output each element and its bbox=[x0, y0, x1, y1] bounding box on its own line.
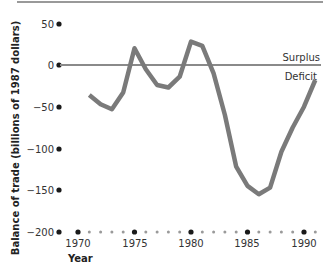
y-tick-label: 50 bbox=[41, 19, 54, 30]
x-tick-dot-minor bbox=[156, 231, 159, 234]
x-tick-dot-minor bbox=[167, 231, 170, 234]
x-tick-dot-minor bbox=[314, 231, 317, 234]
y-tick-dot bbox=[56, 21, 61, 26]
y-tick-label: 0 bbox=[48, 60, 54, 71]
y-tick-dot bbox=[56, 229, 61, 234]
x-tick-dot-minor bbox=[291, 231, 294, 234]
y-tick-label: −100 bbox=[27, 144, 54, 155]
x-tick-dot-major bbox=[245, 229, 250, 234]
x-tick-dot-minor bbox=[212, 231, 215, 234]
x-tick-dot-minor bbox=[88, 231, 91, 234]
x-axis-dots bbox=[75, 229, 316, 234]
x-axis-label: Year bbox=[67, 253, 93, 264]
x-tick-dot-major bbox=[132, 229, 137, 234]
x-tick-dot-minor bbox=[269, 231, 272, 234]
x-tick-dot-minor bbox=[178, 231, 181, 234]
x-tick-dot-minor bbox=[122, 231, 125, 234]
y-tick-label: −50 bbox=[33, 102, 54, 113]
y-tick-dot bbox=[56, 187, 61, 192]
x-tick-dot-major bbox=[188, 229, 193, 234]
x-tick-dot-minor bbox=[280, 231, 283, 234]
x-tick-dot-minor bbox=[223, 231, 226, 234]
x-tick-dot-major bbox=[75, 229, 80, 234]
x-tick-dot-major bbox=[301, 229, 306, 234]
y-tick-label: −150 bbox=[27, 185, 54, 196]
x-tick-label: 1985 bbox=[234, 238, 259, 249]
x-tick-label: 1980 bbox=[178, 238, 203, 249]
x-tick-label: 1970 bbox=[65, 238, 90, 249]
y-tick-dot bbox=[56, 104, 61, 109]
x-tick-dot-minor bbox=[110, 231, 113, 234]
x-tick-dot-minor bbox=[235, 231, 238, 234]
balance-of-trade-chart: Balance of trade (billions of 1987 dolla… bbox=[0, 0, 336, 276]
y-tick-dot bbox=[56, 146, 61, 151]
y-axis-label: Balance of trade (billions of 1987 dolla… bbox=[10, 21, 21, 255]
y-axis-ticks: 50 0 −50 −100 −150 −200 bbox=[27, 19, 62, 238]
y-tick-label: −200 bbox=[27, 227, 54, 238]
deficit-label: Deficit bbox=[285, 71, 317, 82]
x-tick-label: 1975 bbox=[122, 238, 147, 249]
x-tick-dot-minor bbox=[257, 231, 260, 234]
x-tick-label: 1990 bbox=[291, 238, 316, 249]
x-tick-dot-minor bbox=[201, 231, 204, 234]
surplus-label: Surplus bbox=[283, 52, 320, 63]
x-tick-dot-minor bbox=[144, 231, 147, 234]
x-axis-ticks: 1970 1975 1980 1985 1990 bbox=[65, 238, 316, 249]
x-tick-dot-minor bbox=[99, 231, 102, 234]
